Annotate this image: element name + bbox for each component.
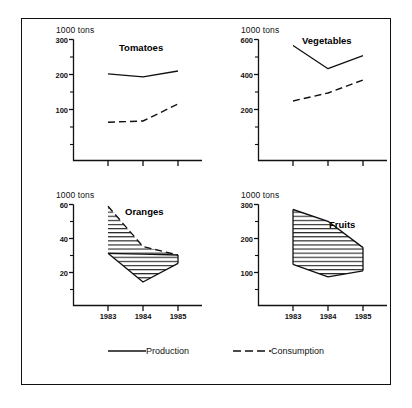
hatched-band-fruits xyxy=(293,210,363,277)
y-major-ticks-tomatoes xyxy=(69,40,74,110)
x-ticks-fruits xyxy=(293,306,363,312)
plot-area-tomatoes xyxy=(22,19,207,187)
series-line-production-vegetables xyxy=(293,46,363,69)
x-ticks-oranges xyxy=(108,306,178,312)
y-major-ticks-vegetables xyxy=(254,40,259,110)
chart-panel-oranges: 1000 tons Oranges 60 40 20 1983 1984 198… xyxy=(22,187,207,342)
hatched-band-lower-oranges xyxy=(108,253,178,282)
chart-panel-fruits: 1000 tons Fruits 300 200 100 1983 1984 1… xyxy=(207,187,392,342)
plot-area-vegetables xyxy=(207,19,392,187)
chart-panel-tomatoes: 1000 tons Tomatoes 300 200 100 xyxy=(22,19,207,187)
legend-entry-production: Production xyxy=(108,346,189,356)
hatched-band-upper-oranges xyxy=(108,206,178,255)
series-line-consumption-vegetables xyxy=(293,80,363,101)
legend-label-consumption: Consumption xyxy=(271,346,324,356)
chart-panel-vegetables: 1000 tons Vegetables 600 400 200 xyxy=(207,19,392,187)
x-ticks-tomatoes xyxy=(108,161,178,167)
axis-lines-tomatoes xyxy=(74,40,203,161)
plot-area-fruits xyxy=(207,187,392,342)
series-line-consumption-tomatoes xyxy=(108,104,178,122)
legend-label-production: Production xyxy=(146,346,189,356)
plot-area-oranges xyxy=(22,187,207,342)
y-major-ticks-oranges xyxy=(69,205,74,273)
legend-line-dashed-icon xyxy=(233,346,271,356)
axis-lines-vegetables xyxy=(259,40,388,161)
series-line-production-tomatoes xyxy=(108,71,178,77)
legend-line-solid-icon xyxy=(108,346,146,356)
y-major-ticks-fruits xyxy=(254,205,259,273)
legend-entry-consumption: Consumption xyxy=(233,346,324,356)
x-ticks-vegetables xyxy=(293,161,363,167)
figure-legend: Production Consumption xyxy=(22,341,392,369)
figure-frame: 1000 tons Tomatoes 300 200 100 xyxy=(21,18,391,385)
